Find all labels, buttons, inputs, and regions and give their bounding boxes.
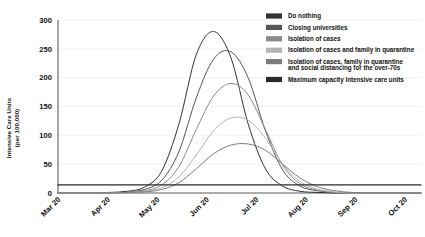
y-axis-tick-label: 300 [39,16,52,25]
chart-container: Intensive Care Units (per 100,000) 05010… [0,0,425,237]
series-group [58,32,421,194]
y-axis-tick-label: 0 [48,189,52,198]
x-axis-tick-label: Sep 20 [336,195,360,219]
y-axis-tick-label: 100 [39,131,52,140]
y-axis-tick-label: 150 [39,102,52,111]
y-axis-ticks: 050100150200250300 [39,16,52,198]
y-axis-tick-label: 200 [39,73,52,82]
legend-label-line2: and social distancing for the over-70s [288,64,401,72]
legend-label: Isolation of cases and family in quarant… [288,46,415,54]
series-line [58,117,421,193]
y-axis-tick-label: 50 [44,160,52,169]
y-axis-tick-label: 250 [39,45,52,54]
legend-swatch [266,25,282,30]
series-line [58,51,421,194]
legend-swatch [266,13,282,18]
legend-swatch [266,36,282,41]
x-axis-tick-label: May 20 [137,195,161,219]
y-axis-title-line2: (per 100,000) [13,109,20,148]
x-axis-tick-label: Jul 20 [239,195,261,217]
legend-label: Closing universities [288,24,348,32]
x-axis-tick-label: Jun 20 [188,195,211,218]
gridlines [58,20,421,164]
x-axis-tick-label: Aug 20 [286,195,310,219]
y-axis-title-line1: Intensive Care Units [5,97,12,158]
series-line [58,32,421,194]
chart-legend: Do nothingClosing universitiesIsolation … [266,12,415,84]
series-line [58,144,421,194]
series-line [58,83,421,193]
legend-swatch [266,77,282,82]
legend-swatch [266,48,282,53]
legend-swatch [266,59,282,64]
x-axis-ticks: Mar 20Apr 20May 20Jun 20Jul 20Aug 20Sep … [39,195,409,219]
legend-label: Do nothing [288,12,321,20]
legend-label: Maximum capacity intensive care units [288,76,404,84]
x-axis-tick-label: Apr 20 [89,195,112,218]
x-axis-tick-label: Mar 20 [39,195,62,218]
y-axis-title: Intensive Care Units (per 100,000) [5,97,20,158]
legend-label: Isolation of cases [288,35,341,42]
line-chart: Intensive Care Units (per 100,000) 05010… [0,0,425,237]
x-axis-tick-label: Oct 20 [386,195,409,218]
